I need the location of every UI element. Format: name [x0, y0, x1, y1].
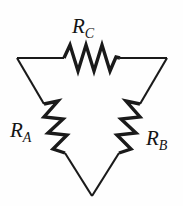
resistor-b-zigzag: [117, 101, 140, 153]
resistor-a-zigzag: [44, 101, 67, 153]
resistor-c-symbol: R: [72, 14, 85, 38]
resistor-c-label: RC: [72, 16, 94, 37]
wire-right-lower-segment: [92, 153, 119, 196]
resistor-c-subscript: C: [85, 26, 94, 41]
resistor-b-symbol: R: [146, 126, 159, 150]
resistor-c-zigzag: [64, 45, 120, 71]
wire-left-lower-segment: [65, 153, 92, 196]
wire-left-upper-segment: [17, 58, 44, 104]
resistor-b-label: RB: [146, 128, 167, 149]
resistor-a-subscript: A: [23, 130, 32, 145]
circuit-diagram-canvas: RC RA RB: [0, 0, 183, 206]
wire-right-upper-segment: [140, 58, 167, 104]
resistor-a-symbol: R: [10, 118, 23, 142]
resistor-b-subscript: B: [159, 138, 168, 153]
resistor-a-label: RA: [10, 120, 31, 141]
